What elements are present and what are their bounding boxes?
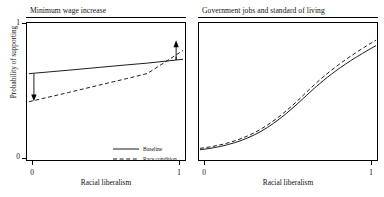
x-tick-label-0-left: 0 — [25, 168, 39, 177]
panel-government-jobs: Government jobs and standard of living 0… — [192, 0, 384, 197]
legend-left: Baseline Race condition — [113, 145, 177, 165]
legend-item-baseline: Baseline — [113, 145, 177, 153]
panel-minimum-wage: Minimum wage increase Probability of sup… — [0, 0, 192, 197]
plot-lines-left — [27, 23, 185, 160]
x-tick-mark-0-left — [32, 161, 33, 165]
figure-panels: Minimum wage increase Probability of sup… — [0, 0, 384, 197]
plot-area-right — [198, 22, 378, 161]
title-rule-right — [198, 17, 378, 18]
legend-line-solid-icon — [113, 146, 139, 152]
title-rule-left — [26, 17, 186, 18]
legend-label-race-condition: Race condition — [143, 156, 177, 162]
plot-area-left: Baseline Race condition — [26, 22, 186, 161]
series-baseline-left — [29, 59, 183, 73]
x-tick-mark-1-left — [179, 161, 180, 165]
legend-line-dashed-icon — [113, 156, 139, 162]
x-tick-mark-1-right — [371, 161, 372, 165]
series-race-condition-right — [200, 40, 376, 148]
x-tick-label-1-left: 1 — [172, 168, 186, 177]
plot-lines-right — [199, 23, 377, 160]
legend-label-baseline: Baseline — [143, 146, 162, 152]
y-tick-label-top-left: 1 — [6, 18, 20, 27]
x-tick-mark-0-right — [204, 161, 205, 165]
series-race-condition-left — [29, 50, 183, 101]
annotation-arrow-up-right — [173, 40, 178, 60]
x-axis-label-left: Racial liberalism — [26, 178, 186, 187]
annotation-arrow-down-left — [31, 74, 36, 102]
x-tick-label-1-right: 1 — [364, 168, 378, 177]
panel-title-left: Minimum wage increase — [30, 6, 106, 15]
x-tick-label-0-right: 0 — [197, 168, 211, 177]
y-tick-label-bottom-left: 0 — [6, 152, 20, 161]
panel-title-right: Government jobs and standard of living — [202, 6, 325, 15]
series-baseline-right — [200, 46, 376, 150]
legend-item-race-condition: Race condition — [113, 155, 177, 163]
x-axis-label-right: Racial liberalism — [198, 178, 378, 187]
